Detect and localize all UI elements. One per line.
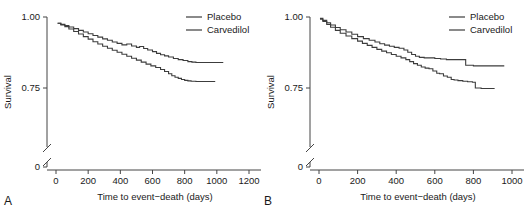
x-tick-1000-label: 1000 xyxy=(501,175,522,186)
panel-b-plot: 1.000.75002004006008001000Time to event−… xyxy=(263,0,526,210)
panel-a-letter: A xyxy=(4,194,12,208)
legend-label-placebo: Placebo xyxy=(207,11,241,22)
x-axis-title: Time to event−death (days) xyxy=(97,191,213,202)
y-tick-0-75-label: 0.75 xyxy=(22,82,41,93)
x-tick-0-label: 0 xyxy=(53,175,58,186)
x-tick-200-label: 200 xyxy=(350,175,366,186)
y-tick-0-label: 0 xyxy=(298,161,303,172)
x-tick-1200-label: 1200 xyxy=(238,175,259,186)
x-tick-800-label: 800 xyxy=(177,175,193,186)
curve-carvedilol xyxy=(58,23,224,62)
legend-label-placebo: Placebo xyxy=(470,11,504,22)
x-axis-title: Time to event−death (days) xyxy=(360,191,476,202)
y-axis-title: Survival xyxy=(2,75,13,109)
panel-a-plot: 1.000.750020040060080010001200Time to ev… xyxy=(0,0,263,210)
y-tick-1-00-label: 1.00 xyxy=(22,11,41,22)
x-tick-1000-label: 1000 xyxy=(206,175,227,186)
x-tick-600-label: 600 xyxy=(145,175,161,186)
legend-label-carvedilol: Carvedilol xyxy=(207,24,249,35)
x-tick-400-label: 400 xyxy=(112,175,128,186)
y-axis-title: Survival xyxy=(265,75,276,109)
x-tick-200-label: 200 xyxy=(80,175,96,186)
x-tick-0-label: 0 xyxy=(316,175,321,186)
curve-placebo xyxy=(58,23,216,81)
survival-figure: 1.000.750020040060080010001200Time to ev… xyxy=(0,0,526,210)
x-tick-600-label: 600 xyxy=(427,175,443,186)
panel-b: 1.000.75002004006008001000Time to event−… xyxy=(263,0,526,210)
y-tick-1-00-label: 1.00 xyxy=(285,11,304,22)
legend-label-carvedilol: Carvedilol xyxy=(470,24,512,35)
panel-b-letter: B xyxy=(264,194,272,208)
y-tick-0-label: 0 xyxy=(35,161,40,172)
panel-a: 1.000.750020040060080010001200Time to ev… xyxy=(0,0,263,210)
y-tick-0-75-label: 0.75 xyxy=(285,82,304,93)
x-tick-400-label: 400 xyxy=(388,175,404,186)
x-tick-800-label: 800 xyxy=(465,175,481,186)
